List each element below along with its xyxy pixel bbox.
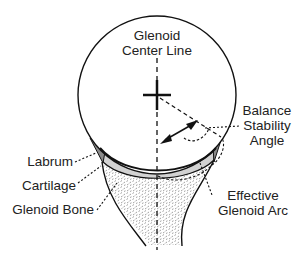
label-balance-stability-angle-2: Stability — [243, 118, 291, 133]
label-glenoid-center-line: Glenoid — [134, 28, 181, 43]
leader-glenoid-bone — [97, 183, 117, 210]
glenoid-stability-diagram: Glenoid Center Line Balance Stability An… — [0, 0, 306, 260]
leader-cartilage — [78, 166, 101, 183]
label-cartilage: Cartilage — [22, 178, 76, 193]
label-balance-stability-angle-3: Angle — [250, 133, 285, 148]
leader-labrum — [75, 153, 96, 162]
label-glenoid-center-line-2: Center Line — [122, 43, 192, 58]
label-balance-stability-angle: Balance — [243, 103, 292, 118]
label-effective-glenoid-arc: Effective — [227, 188, 279, 203]
label-labrum: Labrum — [27, 154, 73, 169]
label-glenoid-bone: Glenoid Bone — [12, 202, 94, 217]
label-effective-glenoid-arc-2: Glenoid Arc — [218, 203, 288, 218]
